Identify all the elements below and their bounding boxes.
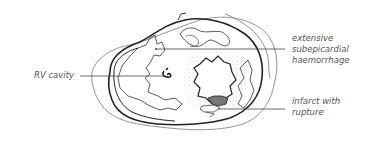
label-rv-cavity: RV cavity	[34, 70, 74, 81]
rv-wall-inner	[114, 48, 175, 121]
label-haemorrhage-line2: subepicardial	[292, 44, 350, 55]
label-infarct-line2: rupture	[292, 107, 340, 118]
top-stub	[178, 13, 186, 20]
rv-cavity-mark	[163, 68, 171, 77]
label-haemorrhage-line3: haemorrhage	[292, 55, 350, 66]
label-haemorrhage-line1: extensive	[292, 33, 350, 44]
label-infarct-rupture: infarct with rupture	[292, 96, 340, 118]
upper-haemorrhage-lobe-2	[186, 35, 199, 46]
upper-haemorrhage-lobe	[180, 28, 229, 46]
label-haemorrhage: extensive subepicardial haemorrhage	[292, 33, 350, 66]
subepicardial-haemorrhage-region	[118, 35, 182, 110]
label-infarct-line1: infarct with	[292, 96, 340, 107]
